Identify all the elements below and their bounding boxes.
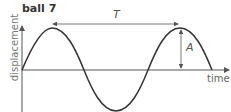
x-axis-label: time [207,73,230,84]
amplitude-label: A [186,41,194,54]
period-label: T [113,8,120,21]
y-axis-label: displacement [9,8,20,88]
diagram-title: ball 7 [22,2,56,15]
